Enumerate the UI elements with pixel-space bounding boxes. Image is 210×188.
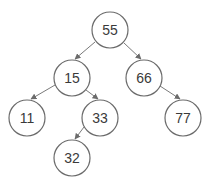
- edge-arrow-n66-n77: [160, 86, 180, 99]
- tree-node-33: 33: [82, 100, 118, 136]
- tree-node-55: 55: [92, 12, 128, 48]
- edge-arrow-n33-n32: [75, 127, 84, 139]
- edge-arrow-n55-n66: [124, 43, 141, 59]
- tree-node-32: 32: [54, 140, 90, 176]
- tree-node-15: 15: [54, 60, 90, 96]
- node-label: 66: [136, 70, 152, 86]
- edge-arrow-n15-n11: [31, 85, 55, 99]
- node-label: 11: [20, 110, 35, 126]
- node-label: 55: [102, 22, 118, 38]
- edge-arrow-n55-n15: [75, 42, 95, 59]
- tree-node-77: 77: [165, 100, 201, 136]
- tree-node-11: 11: [9, 100, 45, 136]
- edge-arrow-n15-n33: [86, 90, 98, 99]
- node-label: 33: [92, 110, 108, 126]
- node-label: 32: [64, 150, 80, 166]
- tree-diagram: 55156611337732: [0, 0, 210, 188]
- node-label: 15: [64, 70, 80, 86]
- tree-node-66: 66: [126, 60, 162, 96]
- node-label: 77: [175, 110, 191, 126]
